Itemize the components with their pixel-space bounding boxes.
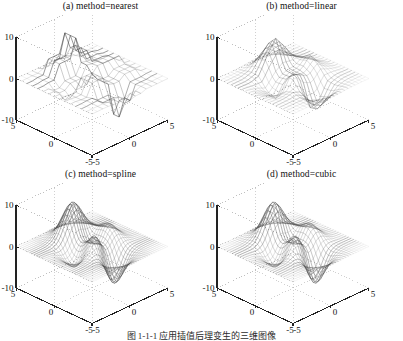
svg-text:10: 10 xyxy=(5,200,15,210)
svg-text:0: 0 xyxy=(333,139,338,149)
svg-text:-5: -5 xyxy=(293,157,301,167)
panel-linear: (b) method=linear -10010-505-505 xyxy=(201,0,402,168)
svg-text:-5: -5 xyxy=(92,157,100,167)
svg-text:0: 0 xyxy=(210,74,215,84)
svg-text:0: 0 xyxy=(49,139,54,149)
svg-text:5: 5 xyxy=(212,121,217,131)
plot-area-linear: -10010-505-505 xyxy=(201,14,402,168)
svg-text:0: 0 xyxy=(9,242,14,252)
plot-area-cubic: -10010-505-505 xyxy=(201,182,402,336)
svg-text:5: 5 xyxy=(371,289,376,299)
svg-text:5: 5 xyxy=(371,121,376,131)
svg-text:5: 5 xyxy=(11,121,16,131)
svg-text:5: 5 xyxy=(212,289,217,299)
panel-title-spline: (c) method=spline xyxy=(0,169,201,179)
panel-nearest: (a) method=nearest -10010-505-505 xyxy=(0,0,201,168)
svg-text:0: 0 xyxy=(49,307,54,317)
svg-text:5: 5 xyxy=(11,289,16,299)
svg-text:0: 0 xyxy=(333,307,338,317)
svg-text:10: 10 xyxy=(206,200,216,210)
surface-plot-cubic: -10010-505-505 xyxy=(201,182,402,336)
panel-spline: (c) method=spline -10010-505-505 xyxy=(0,168,201,336)
svg-text:5: 5 xyxy=(170,121,175,131)
svg-text:0: 0 xyxy=(132,139,137,149)
panel-title-nearest: (a) method=nearest xyxy=(0,1,201,11)
panel-cubic: (d) method=cubic -10010-505-505 xyxy=(201,168,402,336)
svg-text:0: 0 xyxy=(210,242,215,252)
svg-text:0: 0 xyxy=(250,307,255,317)
panel-title-linear: (b) method=linear xyxy=(201,1,402,11)
svg-text:0: 0 xyxy=(250,139,255,149)
svg-text:10: 10 xyxy=(206,32,216,42)
surface-plot-linear: -10010-505-505 xyxy=(201,14,402,168)
plot-area-nearest: -10010-505-505 xyxy=(0,14,201,168)
svg-text:0: 0 xyxy=(9,74,14,84)
surface-plot-spline: -10010-505-505 xyxy=(0,182,201,336)
plot-area-spline: -10010-505-505 xyxy=(0,182,201,336)
panel-title-cubic: (d) method=cubic xyxy=(201,169,402,179)
surface-plot-nearest: -10010-505-505 xyxy=(0,14,201,168)
figure-caption: 图 1-1-1 应用插值后理变生的三维图像 xyxy=(0,330,403,341)
svg-text:0: 0 xyxy=(132,307,137,317)
svg-text:10: 10 xyxy=(5,32,15,42)
svg-text:5: 5 xyxy=(170,289,175,299)
mesh-lines xyxy=(217,38,369,114)
